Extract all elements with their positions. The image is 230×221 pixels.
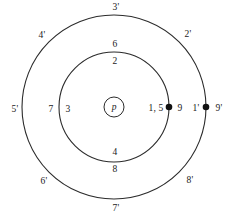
label-7-prime: 7' [113, 204, 120, 214]
label-3-prime: 3' [113, 3, 120, 13]
label-4-prime: 4' [39, 31, 46, 41]
label-5-prime: 5' [12, 105, 19, 115]
inner-point-marker [166, 104, 173, 111]
label-6: 6 [113, 40, 118, 50]
diagram-canvas: p 3' 2' 4' 5' 9' 1' 6' 8' 7' 6 2 7 3 1, … [0, 0, 230, 221]
label-7: 7 [49, 105, 54, 115]
label-9: 9 [178, 104, 183, 114]
label-1-prime: 1' [193, 104, 200, 114]
label-2-prime: 2' [185, 30, 192, 40]
label-8-prime: 8' [187, 176, 194, 186]
label-1-and-5: 1, 5 [148, 104, 163, 114]
label-6-prime: 6' [41, 177, 48, 187]
label-4: 4 [113, 148, 118, 158]
outer-point-marker [203, 104, 210, 111]
label-8: 8 [113, 165, 118, 175]
label-2: 2 [113, 57, 118, 67]
center-point-label: p [112, 102, 117, 112]
label-3: 3 [66, 105, 71, 115]
label-9-prime: 9' [216, 104, 223, 114]
